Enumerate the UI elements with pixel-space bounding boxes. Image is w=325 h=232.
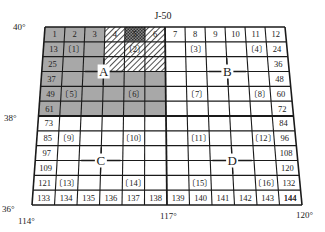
cell-number: 85 — [43, 133, 52, 143]
cell-number: 5 — [133, 29, 137, 39]
shaded-cell — [82, 86, 104, 101]
cell-number: 60 — [277, 89, 286, 99]
bracket-label: 〔1〕 — [63, 44, 85, 54]
quadrant-label-a: A — [99, 64, 109, 79]
cell-number: 12 — [271, 29, 280, 39]
bracket-label: 〔11〕 — [186, 133, 212, 143]
bracket-label: 〔8〕 — [249, 89, 271, 99]
cell-number: 9 — [213, 29, 217, 39]
cell-number: 135 — [82, 193, 95, 203]
cell-number: 7 — [173, 29, 177, 39]
cell-number: 132 — [282, 178, 295, 188]
cell-number: 11 — [251, 29, 259, 39]
cell-number: 24 — [273, 44, 282, 54]
cell-number: 143 — [261, 193, 274, 203]
cell-number: 133 — [37, 193, 50, 203]
shaded-cell — [145, 101, 166, 116]
cell-number: 134 — [60, 193, 74, 203]
cell-number: 136 — [105, 193, 118, 203]
bracket-label: 〔2〕 — [124, 44, 146, 54]
cell-number: 2 — [72, 29, 76, 39]
latitude-label-bottom: 36° — [2, 204, 15, 214]
cell-number: 49 — [46, 89, 55, 99]
bracket-label: 〔12〕 — [250, 133, 277, 143]
cell-number: 25 — [48, 59, 57, 69]
cell-number: 139 — [172, 193, 185, 203]
bracket-label: 〔7〕 — [186, 89, 208, 99]
bracket-label: 〔10〕 — [121, 133, 148, 143]
bracket-label: 〔13〕 — [54, 178, 81, 188]
bracket-label: 〔15〕 — [187, 178, 214, 188]
shaded-cell — [124, 72, 145, 87]
cell-number: 3 — [93, 29, 97, 39]
latitude-label-top: 40° — [13, 22, 26, 32]
latitude-label-mid: 38° — [4, 113, 17, 123]
bracket-label: 〔5〕 — [60, 89, 82, 99]
shaded-cell — [84, 42, 105, 57]
grid-col-line — [165, 27, 167, 205]
longitude-label-left: 114° — [18, 216, 35, 226]
sheet-title: J-50 — [154, 10, 171, 21]
shaded-cell — [103, 86, 124, 101]
cell-number: 73 — [44, 118, 53, 128]
cell-number: 138 — [149, 193, 162, 203]
shaded-cell — [62, 57, 83, 72]
cell-number: 61 — [45, 104, 54, 114]
cell-number: 142 — [239, 193, 252, 203]
quadrant-label-b: B — [223, 64, 232, 79]
quadrant-label-c: C — [97, 153, 106, 168]
bracket-label: 〔14〕 — [120, 178, 147, 188]
cell-number: 108 — [280, 148, 293, 158]
cell-number: 97 — [42, 148, 51, 158]
cell-number: 140 — [194, 193, 207, 203]
cell-number: 4 — [113, 29, 118, 39]
shaded-cell — [81, 101, 103, 116]
bracket-label: 〔9〕 — [58, 133, 80, 143]
cell-number: 84 — [279, 118, 288, 128]
cell-number: 144 — [284, 193, 298, 203]
cell-number: 120 — [281, 163, 294, 173]
cell-number: 137 — [127, 193, 140, 203]
bracket-label: 〔4〕 — [246, 44, 268, 54]
bracket-label: 〔16〕 — [253, 178, 280, 188]
shaded-cell — [62, 72, 84, 87]
shaded-cell — [102, 101, 124, 116]
hatched-cell — [145, 57, 166, 72]
shaded-cell — [145, 86, 166, 101]
quadrant-label-d: D — [227, 153, 236, 168]
shaded-cell — [124, 101, 145, 116]
hatched-cell — [104, 42, 125, 57]
cell-number: 6 — [153, 29, 157, 39]
cell-number: 72 — [278, 104, 287, 114]
bracket-label: 〔6〕 — [123, 89, 145, 99]
bracket-label: 〔3〕 — [185, 44, 207, 54]
cell-number: 10 — [231, 29, 240, 39]
longitude-label-mid: 117° — [160, 211, 177, 221]
hatched-cell — [145, 42, 165, 57]
cell-number: 141 — [217, 193, 230, 203]
cell-number: 36 — [274, 59, 283, 69]
cell-number: 109 — [39, 163, 52, 173]
cell-number: 121 — [38, 178, 51, 188]
map-sheet-diagram: 1234567891011121325374961738597109121243… — [0, 0, 325, 232]
cell-number: 8 — [193, 29, 197, 39]
shaded-cell — [145, 72, 166, 87]
hatched-cell — [124, 57, 145, 72]
cell-number: 1 — [52, 29, 56, 39]
cell-number: 37 — [47, 74, 56, 84]
longitude-label-right: 120° — [296, 210, 314, 220]
cell-number: 96 — [281, 133, 290, 143]
cell-number: 13 — [49, 44, 58, 54]
cell-number: 48 — [275, 74, 284, 84]
shaded-cell — [60, 101, 82, 116]
